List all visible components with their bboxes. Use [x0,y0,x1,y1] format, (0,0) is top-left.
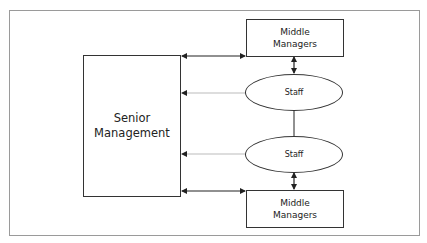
staff-top-label: Staff [285,88,304,97]
senior-management-box: Senior Management [83,55,181,197]
staff-bottom-label: Staff [285,150,304,159]
middle-managers-bottom-label: Middle Managers [273,197,317,221]
staff-bottom-ellipse: Staff [245,136,343,173]
staff-top-ellipse: Staff [245,74,343,111]
middle-managers-top-label: Middle Managers [273,26,317,50]
middle-managers-bottom-box: Middle Managers [246,190,344,228]
senior-management-label: Senior Management [94,111,170,141]
connectors [0,0,427,243]
middle-managers-top-box: Middle Managers [246,19,344,57]
